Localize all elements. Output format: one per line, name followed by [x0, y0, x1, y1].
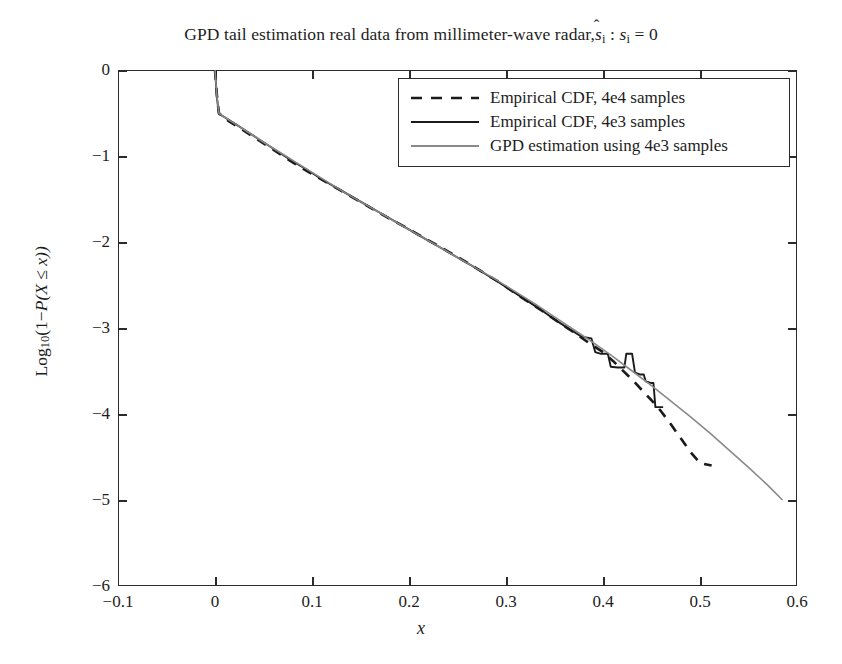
y-axis-title-inner: (X ≤ x)): [31, 246, 51, 300]
x-tick-label: 0.3: [466, 592, 546, 612]
y-tick-label: −5: [64, 490, 110, 510]
x-tick-label: 0: [175, 592, 255, 612]
y-axis-title-log-sub: 10: [38, 336, 52, 349]
legend-item: Empirical CDF, 4e3 samples: [409, 110, 779, 134]
y-tick-label: −1: [64, 146, 110, 166]
y-tick-label: −4: [64, 404, 110, 424]
shat-subscript: i: [602, 32, 606, 46]
y-axis-title-p: P: [31, 301, 51, 312]
legend-swatch-solid-black-icon: [409, 115, 481, 129]
legend-item: Empirical CDF, 4e4 samples: [409, 86, 779, 110]
x-tick-label: 0.4: [563, 592, 643, 612]
x-tick-label: 0.5: [660, 592, 740, 612]
y-tick-label: 0: [64, 60, 110, 80]
figure-canvas: GPD tail estimation real data from milli…: [0, 0, 842, 664]
legend-label: Empirical CDF, 4e4 samples: [490, 88, 685, 108]
y-axis-title-log: Log: [31, 348, 51, 376]
y-tick-label: −2: [64, 232, 110, 252]
chart-title-shat: sî: [595, 24, 606, 47]
x-axis-title: x: [0, 618, 842, 639]
x-tick-label: 0.2: [369, 592, 449, 612]
chart-title-lead: GPD tail estimation real data from milli…: [184, 24, 595, 44]
legend: Empirical CDF, 4e4 samples Empirical CDF…: [398, 78, 790, 167]
legend-swatch-dashed-icon: [409, 91, 481, 105]
chart-title-colon: :: [610, 24, 615, 44]
s-subscript: i: [626, 32, 630, 46]
legend-label: GPD estimation using 4e3 samples: [490, 136, 728, 156]
legend-label: Empirical CDF, 4e3 samples: [490, 112, 685, 132]
y-axis-tick-labels: 0 −1 −2 −3 −4 −5 −6: [58, 0, 110, 664]
y-axis-title: Log10(1−P(X ≤ x)): [31, 161, 54, 461]
chart-title: GPD tail estimation real data from milli…: [0, 24, 842, 47]
legend-swatch-solid-gray-icon: [409, 139, 481, 153]
chart-title-equals: = 0: [635, 24, 658, 44]
legend-item: GPD estimation using 4e3 samples: [409, 134, 779, 158]
x-tick-label: 0.6: [757, 592, 837, 612]
y-tick-label: −3: [64, 318, 110, 338]
x-tick-label: 0.1: [272, 592, 352, 612]
y-axis-title-open: (1−: [31, 311, 51, 335]
x-tick-label: −0.1: [78, 592, 158, 612]
